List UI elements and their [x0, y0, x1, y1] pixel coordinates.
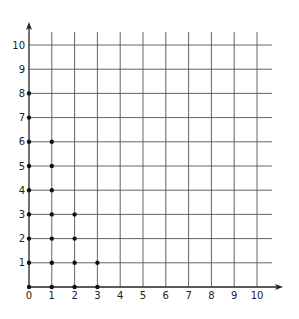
grid-lines: [29, 32, 272, 287]
y-tick-label: 10: [12, 40, 25, 51]
data-point: [50, 164, 54, 168]
x-tick-label: 9: [231, 290, 237, 301]
data-point: [50, 188, 54, 192]
data-point: [72, 236, 76, 240]
data-point: [50, 236, 54, 240]
axes: [26, 22, 283, 290]
y-tick-label: 3: [19, 209, 25, 220]
data-point: [72, 212, 76, 216]
y-tick-label: 9: [19, 64, 25, 75]
data-point: [27, 140, 31, 144]
data-point: [50, 212, 54, 216]
data-point: [50, 261, 54, 265]
y-tick-labels: 12345678910: [12, 40, 25, 269]
x-tick-labels: 012345678910: [26, 290, 264, 301]
data-point: [50, 140, 54, 144]
data-point: [95, 261, 99, 265]
y-tick-label: 1: [19, 257, 25, 268]
y-tick-label: 2: [19, 233, 25, 244]
x-tick-label: 2: [71, 290, 77, 301]
x-tick-label: 10: [251, 290, 264, 301]
y-tick-label: 7: [19, 112, 25, 123]
y-tick-label: 5: [19, 161, 25, 172]
x-tick-label: 7: [185, 290, 191, 301]
data-point: [27, 285, 31, 289]
x-tick-label: 1: [49, 290, 55, 301]
data-point: [50, 285, 54, 289]
x-tick-label: 3: [94, 290, 100, 301]
data-point: [27, 261, 31, 265]
data-point: [95, 285, 99, 289]
data-point: [27, 164, 31, 168]
y-tick-label: 6: [19, 136, 25, 147]
data-point: [27, 91, 31, 95]
data-point: [27, 236, 31, 240]
y-tick-label: 8: [19, 88, 25, 99]
x-tick-label: 4: [117, 290, 123, 301]
x-tick-label: 6: [163, 290, 169, 301]
x-tick-label: 8: [208, 290, 214, 301]
x-tick-label: 0: [26, 290, 32, 301]
data-point: [27, 188, 31, 192]
data-point: [72, 285, 76, 289]
data-point: [27, 115, 31, 119]
y-tick-label: 4: [19, 185, 25, 196]
data-point: [72, 261, 76, 265]
lattice-point-chart: 012345678910 12345678910: [0, 0, 299, 319]
x-tick-label: 5: [140, 290, 146, 301]
data-point: [27, 212, 31, 216]
